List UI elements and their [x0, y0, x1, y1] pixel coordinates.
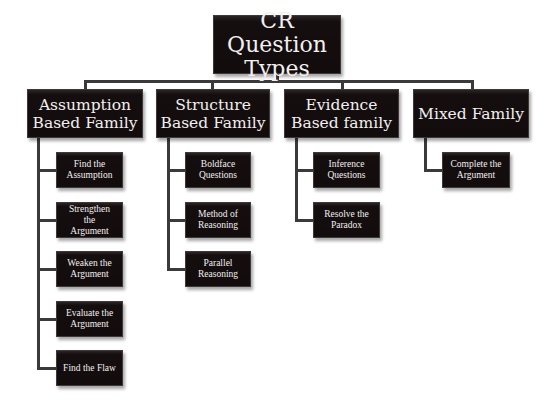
leaf-node: Find the Flaw: [56, 350, 123, 386]
structure-tick: [167, 169, 185, 172]
family-node-mixed: Mixed Family: [413, 89, 529, 138]
leaf-node: Boldface Questions: [185, 152, 251, 188]
mixed-tick: [424, 169, 443, 172]
structure-tick: [167, 268, 185, 271]
leaf-node: Complete the Argument: [442, 152, 510, 188]
assumption-tick: [37, 169, 56, 172]
assumption-tick: [37, 318, 56, 321]
assumption-tick: [37, 219, 56, 222]
leaf-node: Method of Reasoning: [185, 202, 251, 238]
leaf-node: Weaken the Argument: [56, 251, 123, 287]
leaf-node: Strengthen the Argument: [56, 202, 123, 238]
assumption-tick: [37, 367, 56, 370]
evidence-tick: [295, 219, 314, 222]
family-node-assumption: Assumption Based Family: [27, 89, 143, 138]
leaf-node: Inference Questions: [313, 152, 380, 188]
family-node-evidence: Evidence Based family: [284, 89, 399, 138]
structure-tick: [167, 219, 185, 222]
leaf-node: Parallel Reasoning: [185, 251, 251, 287]
mixed-trunk: [424, 138, 427, 172]
structure-trunk: [167, 138, 170, 270]
leaf-node: Evaluate the Argument: [56, 301, 123, 337]
leaf-node: Find the Assumption: [56, 152, 123, 188]
root-node: CR Question Types: [213, 15, 341, 74]
family-node-structure: Structure Based Family: [156, 89, 270, 138]
evidence-tick: [295, 169, 314, 172]
assumption-trunk: [37, 138, 40, 369]
evidence-trunk: [295, 138, 298, 221]
leaf-node: Resolve the Paradox: [313, 202, 380, 238]
assumption-tick: [37, 268, 56, 271]
